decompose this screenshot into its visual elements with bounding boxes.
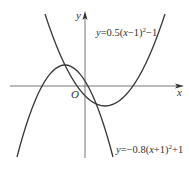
curve-parabola-down (17, 65, 113, 157)
equation-label-down: y=−0.8(x+1)2+1 (115, 143, 183, 156)
equation-label-up: y=0.5(x−1)2−1 (95, 26, 157, 39)
y-axis-label: y (75, 9, 81, 21)
function-graph: x y O y=0.5(x−1)2−1 y=−0.8(x+1)2+1 (0, 0, 189, 171)
x-axis-label: x (176, 86, 182, 98)
origin-label: O (71, 88, 79, 100)
